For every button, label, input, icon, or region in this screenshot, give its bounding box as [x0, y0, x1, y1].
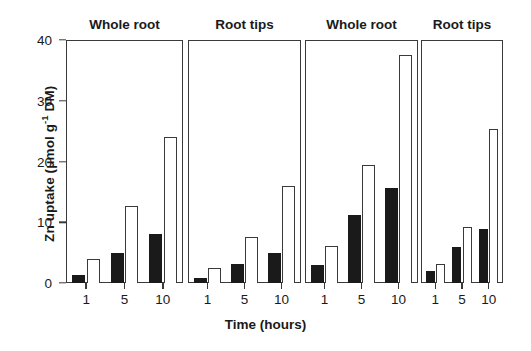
x-axis-tick-mark: [281, 283, 282, 289]
y-axis-tick-label: 20: [37, 154, 52, 169]
bar-open: [362, 165, 375, 283]
x-axis-tick-mark: [162, 283, 163, 289]
panel-title: Root tips: [188, 17, 301, 32]
x-axis-tick-label: 10: [481, 292, 496, 307]
y-axis: 010203040: [0, 0, 66, 351]
y-axis-tick-mark: [59, 39, 66, 40]
bar-open: [463, 227, 472, 283]
panel-plot-area: [66, 40, 183, 283]
x-axis-tick-mark: [85, 283, 86, 289]
bar-open: [399, 55, 412, 283]
chart-panel: Whole root: [305, 40, 418, 283]
y-axis-tick-label: 10: [37, 215, 52, 230]
bar-filled: [385, 188, 398, 283]
panel-title: Whole root: [66, 17, 183, 32]
bar-open: [282, 186, 295, 283]
x-axis-tick-label: 10: [391, 292, 406, 307]
bar-open: [325, 246, 338, 283]
x-axis-tick-label: 5: [458, 292, 466, 307]
bar-filled: [72, 275, 85, 284]
x-axis-tick-label: 1: [82, 292, 90, 307]
zn-uptake-bar-chart-figure: Zn uptake (μmol g-1 DM) 010203040 Whole …: [0, 0, 531, 351]
x-axis-tick-mark: [361, 283, 362, 289]
y-axis-tick-mark: [59, 100, 66, 101]
x-axis-tick-mark: [124, 283, 125, 289]
bar-open: [208, 268, 221, 283]
x-axis-tick-label: 1: [432, 292, 440, 307]
y-axis-tick-label: 40: [37, 33, 52, 48]
x-axis-tick-mark: [461, 283, 462, 289]
bar-open: [436, 264, 445, 283]
bar-open: [164, 137, 177, 283]
y-axis-tick-mark: [59, 161, 66, 162]
x-axis-tick-label: 5: [241, 292, 249, 307]
x-axis-tick-label: 5: [121, 292, 129, 307]
y-axis-tick-label: 0: [44, 276, 52, 291]
panel-plot-area: [421, 40, 503, 283]
x-axis-title: Time (hours): [0, 317, 531, 332]
chart-panel: Root tips: [421, 40, 503, 283]
x-axis-tick-mark: [324, 283, 325, 289]
bar-open: [245, 237, 258, 283]
y-axis-tick-mark: [59, 282, 66, 283]
x-axis-tick-label: 1: [321, 292, 329, 307]
bar-open: [87, 259, 100, 283]
x-axis-tick-mark: [207, 283, 208, 289]
y-axis-tick-mark: [59, 222, 66, 223]
bar-filled: [311, 265, 324, 283]
x-axis-tick-mark: [435, 283, 436, 289]
panel-title: Root tips: [421, 17, 503, 32]
bar-filled: [268, 253, 281, 283]
bar-open: [125, 206, 138, 283]
bar-filled: [426, 271, 435, 283]
panel-title: Whole root: [305, 17, 418, 32]
bar-filled: [452, 247, 461, 283]
x-axis-tick-mark: [398, 283, 399, 289]
chart-panel: Root tips: [188, 40, 301, 283]
x-axis-tick-label: 10: [274, 292, 289, 307]
bar-filled: [194, 278, 207, 283]
x-axis-tick-label: 1: [204, 292, 212, 307]
y-axis-tick-label: 30: [37, 93, 52, 108]
bar-filled: [149, 234, 162, 283]
x-axis-tick-label: 10: [155, 292, 170, 307]
x-axis-tick-label: 5: [358, 292, 366, 307]
bar-filled: [111, 253, 124, 283]
bar-filled: [348, 215, 361, 283]
bar-filled: [479, 229, 488, 283]
panel-plot-area: [188, 40, 301, 283]
x-axis-tick-mark: [488, 283, 489, 289]
chart-panel: Whole root: [66, 40, 183, 283]
panel-plot-area: [305, 40, 418, 283]
bar-filled: [231, 264, 244, 283]
x-axis-tick-mark: [244, 283, 245, 289]
bar-open: [489, 129, 498, 283]
